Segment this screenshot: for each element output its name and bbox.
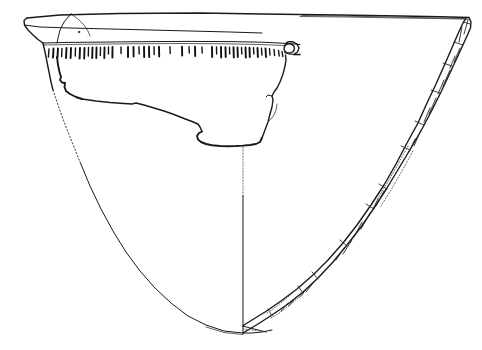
- wall-outer-edge: [243, 18, 471, 334]
- section-dotted-reconstruction-b: [381, 151, 413, 206]
- left-profile-dotted: [53, 90, 80, 162]
- tick-mark: [279, 51, 280, 57]
- left-profile-outer-solid: [80, 162, 243, 333]
- lug-pierce-hole: [284, 44, 294, 53]
- tick-mark: [266, 49, 267, 58]
- sherd-left-break-edge: [57, 57, 82, 99]
- vessel-profile-drawing: [0, 0, 482, 350]
- section-divider: [454, 42, 463, 45]
- pottery-profile-figure: [0, 0, 482, 350]
- sherd-interior-join-line-2: [71, 14, 90, 36]
- sherd-break-edge-step: [197, 132, 262, 147]
- wall-inner-edge: [243, 18, 466, 326]
- rim-band-lower-edge-double: [43, 44, 285, 46]
- right-section-wall-group: [243, 18, 471, 334]
- sherd-upper-band: [43, 14, 300, 46]
- sherd-break-edge-main: [82, 99, 202, 132]
- tick-mark: [48, 49, 49, 57]
- sherd-left-outer-wall: [43, 43, 53, 90]
- tick-mark: [66, 48, 67, 58]
- section-divider: [415, 121, 424, 125]
- section-divider: [268, 309, 272, 316]
- lug-handle-group: [284, 42, 300, 55]
- tick-mark: [274, 50, 275, 56]
- section-hatch-strokes: [281, 20, 468, 311]
- tick-mark: [282, 52, 283, 57]
- stipple-dot: [78, 31, 79, 32]
- incised-tick-band: [48, 47, 282, 59]
- sherd-right-break-edge: [262, 55, 286, 138]
- tick-mark: [53, 49, 54, 58]
- sherd-right-nick: [266, 95, 272, 97]
- rim-left-lip: [24, 18, 43, 43]
- left-reconstruction-group: [53, 90, 243, 335]
- tick-mark: [270, 49, 271, 55]
- section-divider: [366, 204, 374, 209]
- section-divider: [298, 286, 303, 293]
- section-dotted-reconstruction-a: [377, 146, 408, 200]
